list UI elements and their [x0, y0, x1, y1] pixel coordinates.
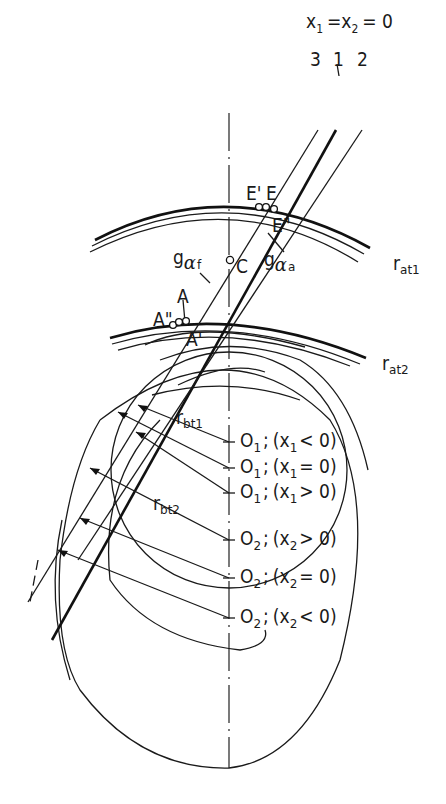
label-E-dprime: E"	[272, 214, 291, 236]
line-number-1: 1	[333, 48, 344, 70]
action-line-lower-dash	[30, 560, 38, 602]
label-center-O2-x2-eq0: O2;(x2= 0)	[240, 565, 337, 591]
label-A-dprime: A"	[153, 308, 173, 330]
label-g-alpha-f: gαf	[173, 246, 202, 273]
label-center-O1-x1-eq0: O1;(x1= 0)	[240, 455, 337, 481]
point-A-prime	[183, 318, 190, 325]
point-E-dprime	[271, 206, 278, 213]
label-r-bt1: rbt1	[176, 406, 203, 431]
line-number-2: 2	[357, 48, 368, 70]
gear-circle-arc	[160, 347, 368, 471]
tip-circle-2-arc	[112, 331, 360, 364]
point-C	[226, 256, 233, 263]
label-center-O2-x2-lt0: O2;(x2< 0)	[240, 605, 337, 631]
gear-mesh-diagram: x1=x2= 0 3 1 2 E' E E" C A A" A' gαf gαa…	[0, 0, 446, 804]
leader-gaf	[200, 273, 210, 283]
label-E-prime: E'	[246, 182, 262, 204]
title-equation: x1=x2= 0	[306, 10, 393, 36]
tip-circle-1-arc	[90, 219, 358, 262]
point-A	[176, 319, 183, 326]
arrowhead	[90, 468, 100, 475]
label-r-at2: rat2	[382, 352, 409, 377]
point-E	[263, 204, 270, 211]
label-r-at1: rat1	[393, 252, 420, 277]
label-r-bt2: rbt2	[153, 492, 180, 517]
line-number-3: 3	[310, 48, 321, 70]
label-E: E	[266, 182, 277, 204]
point-E-prime	[256, 204, 263, 211]
label-A: A	[177, 285, 189, 307]
label-center-O1-x1-lt0: O1;(x1< 0)	[240, 429, 337, 455]
gear-circle-arc	[152, 386, 300, 400]
label-center-O2-x2-gt0: O2;(x2> 0)	[240, 527, 337, 553]
label-A-prime: A'	[186, 328, 202, 350]
label-C: C	[236, 255, 248, 277]
label-center-O1-x1-gt0: O1;(x1> 0)	[240, 480, 337, 506]
